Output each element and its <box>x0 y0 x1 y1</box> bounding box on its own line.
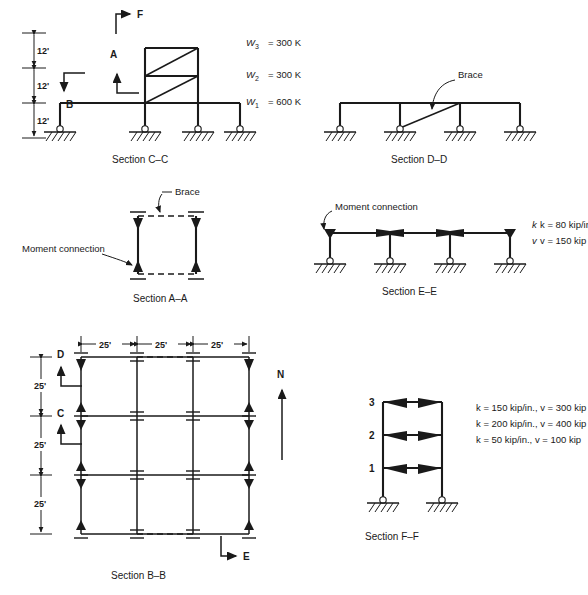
load-w3-value: = 300 K <box>268 37 302 48</box>
brace-line <box>400 103 460 128</box>
svg-text:W1: W1 <box>246 96 259 109</box>
section-marker-d: D <box>57 349 82 386</box>
svg-text:v: v <box>532 235 538 246</box>
section-dd-frame <box>340 103 520 128</box>
load-w1-value: = 600 K <box>268 96 302 107</box>
section-marker-d-label: D <box>57 349 64 360</box>
section-ff-properties: k = 150 kip/in., v = 300 kip k = 200 kip… <box>476 402 586 445</box>
svg-text:W2: W2 <box>246 69 259 82</box>
moment-connection-label: Moment connection <box>22 243 105 254</box>
section-ff-figure: 3 2 1 k = 150 kip/in., v = 300 kip k = 2… <box>335 375 588 565</box>
section-dd-supports <box>324 126 536 141</box>
bay-v-3: 25' <box>34 499 46 509</box>
moment-connection-callout: Moment connection <box>324 201 418 229</box>
section-bb-figure: 25' 25' 25' 25' 25' 25' <box>0 330 310 595</box>
moment-marker <box>191 260 201 272</box>
story-height-2: 12' <box>37 81 49 91</box>
story-property-3: k = 150 kip/in., v = 300 kip <box>476 402 586 413</box>
brace-upper <box>145 48 198 76</box>
load-w2-value: = 300 K <box>268 69 302 80</box>
section-aa-caption: Section A–A <box>133 293 188 304</box>
section-marker-b: B <box>64 73 85 110</box>
section-cc-frame <box>60 48 240 128</box>
stiffness-line-1: k = 80 kip/in., <box>540 219 588 230</box>
section-dd-caption: Section D–D <box>391 154 447 165</box>
level-label-2: 2 <box>369 430 375 441</box>
section-marker-f: F <box>116 9 143 34</box>
bay-v-1: 25' <box>34 381 46 391</box>
moment-marker <box>133 218 143 230</box>
section-aa-frame <box>130 212 204 279</box>
bay-h-1: 25' <box>99 340 111 350</box>
story-property-2: k = 200 kip/in., v = 400 kip <box>476 418 586 429</box>
section-marker-f-label: F <box>137 9 143 20</box>
section-ee-supports <box>314 258 526 273</box>
load-label-w2: W2 = 300 K <box>246 69 302 82</box>
section-bb-caption: Section B–B <box>111 570 166 581</box>
moment-marker <box>191 218 201 230</box>
plan-connection-markers <box>74 353 256 538</box>
section-marker-a: A <box>110 49 139 93</box>
plan-grid <box>81 357 249 534</box>
section-ff-caption: Section F–F <box>365 531 419 542</box>
section-ee-properties: k k = 80 kip/in., v v = 150 kip <box>532 219 588 246</box>
section-dd-figure: Brace <box>315 60 588 175</box>
moment-marker <box>133 260 143 272</box>
story-height-dimensions: 12' 12' 12' <box>22 33 49 138</box>
section-ee-caption: Section E–E <box>382 286 437 297</box>
brace-callout: Brace <box>159 186 200 212</box>
section-marker-c-label: C <box>57 408 64 419</box>
north-arrow: N <box>277 369 284 460</box>
section-cc-supports <box>44 126 256 141</box>
bay-v-2: 25' <box>34 440 46 450</box>
level-label-1: 1 <box>369 463 375 474</box>
section-marker-a-label: A <box>110 49 117 60</box>
section-marker-e: E <box>221 536 250 562</box>
svg-text:k: k <box>532 219 538 230</box>
section-marker-c: C <box>57 408 82 444</box>
level-label-3: 3 <box>369 397 375 408</box>
section-marker-e-label: E <box>243 551 250 562</box>
section-marker-b-label: B <box>66 99 73 110</box>
load-label-w1: W1 = 600 K <box>246 96 302 109</box>
plan-dimensions-vertical: 25' 25' 25' <box>30 357 52 534</box>
section-aa-figure: Brace Moment connection Section A–A <box>20 182 300 307</box>
section-ee-figure: Moment connection <box>310 185 588 305</box>
moment-connection-label: Moment connection <box>335 201 418 212</box>
story-property-1: k = 50 kip/in., v = 100 kip <box>476 434 581 445</box>
section-cc-caption: Section C–C <box>112 154 168 165</box>
plan-dimensions-horizontal: 25' 25' 25' <box>81 336 249 352</box>
section-ff-supports <box>367 497 458 512</box>
bay-h-3: 25' <box>211 340 223 350</box>
load-label-w3: W3 = 300 K <box>246 37 302 50</box>
story-height-1: 12' <box>37 46 49 56</box>
section-ee-frame <box>324 229 516 260</box>
north-label: N <box>277 369 284 380</box>
section-ff-frame <box>383 398 442 499</box>
brace-lower <box>145 76 198 103</box>
bay-h-2: 25' <box>155 340 167 350</box>
story-height-3: 12' <box>37 116 49 126</box>
brace-label: Brace <box>175 186 200 197</box>
moment-connection-callout: Moment connection <box>22 243 132 265</box>
brace-label: Brace <box>458 69 483 80</box>
svg-text:W3: W3 <box>246 37 259 50</box>
stiffness-line-2: v = 150 kip <box>540 235 586 246</box>
